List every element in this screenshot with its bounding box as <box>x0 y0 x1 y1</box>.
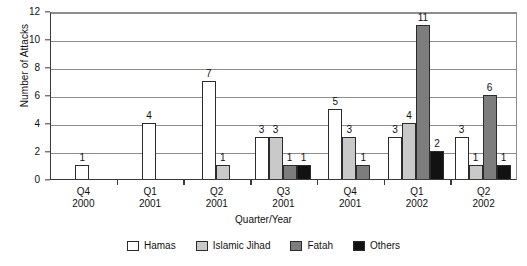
x-axis-category-label: Q42001 <box>317 186 384 210</box>
x-axis-year: 2001 <box>183 198 250 210</box>
bar: 4 <box>402 123 416 179</box>
bar-value-label: 1 <box>287 153 293 163</box>
x-axis-quarter: Q1 <box>384 186 451 198</box>
bar: 1 <box>216 165 230 179</box>
bar-value-label: 1 <box>360 153 366 163</box>
legend-label: Others <box>370 240 400 251</box>
x-axis-year: 2001 <box>117 198 184 210</box>
bar-value-label: 3 <box>273 125 279 135</box>
y-axis-tick-label: 10 <box>29 35 40 45</box>
bar: 1 <box>75 165 89 179</box>
x-axis-tick-mark <box>384 180 385 185</box>
bar-value-label: 4 <box>406 111 412 121</box>
legend-item: Others <box>353 240 400 251</box>
legend-item: Hamas <box>127 240 176 251</box>
bar-value-label: 2 <box>434 139 440 149</box>
x-axis-quarter: Q4 <box>50 186 117 198</box>
bar-chart: Number of Attacks 024681012 147133115313… <box>0 0 527 266</box>
bar-group: 531 <box>328 11 370 179</box>
x-axis-category-label: Q42000 <box>50 186 117 210</box>
bar: 1 <box>283 165 297 179</box>
x-axis-year: 2001 <box>250 198 317 210</box>
x-axis-tick-mark <box>450 180 451 185</box>
bar: 5 <box>328 109 342 179</box>
legend-label: Fatah <box>307 240 333 251</box>
legend-swatch <box>353 241 365 251</box>
bar-value-label: 5 <box>332 97 338 107</box>
bar-value-label: 6 <box>487 83 493 93</box>
bar: 3 <box>269 137 283 179</box>
bar-value-label: 4 <box>146 111 152 121</box>
x-axis-tick-mark <box>117 180 118 185</box>
x-axis-category-label: Q12002 <box>384 186 451 210</box>
x-axis-quarter: Q2 <box>183 186 250 198</box>
bar-value-label: 11 <box>418 13 428 23</box>
y-axis-tick-label: 6 <box>34 91 40 101</box>
bar: 1 <box>469 165 483 179</box>
y-axis-tick-label: 0 <box>34 175 40 185</box>
legend-label: Hamas <box>144 240 176 251</box>
bar-value-label: 1 <box>473 153 479 163</box>
bar-value-label: 1 <box>80 153 86 163</box>
bar: 3 <box>388 137 402 179</box>
bar-value-label: 7 <box>206 69 212 79</box>
x-axis-category-label: Q32001 <box>250 186 317 210</box>
bar-group: 71 <box>202 11 230 179</box>
bar-value-label: 3 <box>392 125 398 135</box>
y-axis-tick-label: 8 <box>34 63 40 73</box>
x-axis-quarter: Q3 <box>250 186 317 198</box>
legend-label: Islamic Jihad <box>213 240 271 251</box>
bar-value-label: 1 <box>301 153 307 163</box>
x-axis-category-label: Q22002 <box>450 186 517 210</box>
legend-item: Fatah <box>290 240 333 251</box>
x-axis-tick-mark <box>250 180 251 185</box>
plot-area: 14713311531341123161 <box>50 12 517 180</box>
x-axis-category-label: Q22001 <box>183 186 250 210</box>
legend-item: Islamic Jihad <box>196 240 271 251</box>
bar-value-label: 3 <box>259 125 265 135</box>
bar: 3 <box>255 137 269 179</box>
bar-value-label: 3 <box>459 125 465 135</box>
x-axis-year: 2001 <box>317 198 384 210</box>
x-axis-year: 2000 <box>50 198 117 210</box>
bar-group: 3311 <box>255 11 311 179</box>
x-axis-title: Quarter/Year <box>0 214 527 225</box>
legend-swatch <box>290 241 302 251</box>
x-axis-quarter: Q4 <box>317 186 384 198</box>
bar-group: 3161 <box>455 11 511 179</box>
legend-swatch <box>127 241 139 251</box>
x-axis-category-label: Q12001 <box>117 186 184 210</box>
bar-value-label: 1 <box>220 153 226 163</box>
bar: 2 <box>430 151 444 179</box>
y-axis-tick-label: 4 <box>34 119 40 129</box>
y-axis-tick-label: 12 <box>29 7 40 17</box>
y-axis-ticks: 024681012 <box>0 0 50 182</box>
bar-group: 34112 <box>388 11 444 179</box>
x-axis-year: 2002 <box>450 198 517 210</box>
y-axis-tick-label: 2 <box>34 147 40 157</box>
bar: 6 <box>483 95 497 179</box>
x-axis-tick-mark <box>317 180 318 185</box>
bar: 3 <box>455 137 469 179</box>
bar-value-label: 1 <box>501 153 507 163</box>
x-axis-year: 2002 <box>384 198 451 210</box>
bar-group: 1 <box>75 11 89 179</box>
bar: 11 <box>416 25 430 179</box>
bar: 1 <box>497 165 511 179</box>
legend-swatch <box>196 241 208 251</box>
x-axis-quarter: Q1 <box>117 186 184 198</box>
bar: 7 <box>202 81 216 179</box>
chart-legend: HamasIslamic JihadFatahOthers <box>0 240 527 251</box>
bar: 1 <box>297 165 311 179</box>
bar: 4 <box>142 123 156 179</box>
bar-value-label: 3 <box>346 125 352 135</box>
bar-group: 4 <box>142 11 156 179</box>
bar: 1 <box>356 165 370 179</box>
x-axis-tick-mark <box>183 180 184 185</box>
bar: 3 <box>342 137 356 179</box>
x-axis-quarter: Q2 <box>450 186 517 198</box>
